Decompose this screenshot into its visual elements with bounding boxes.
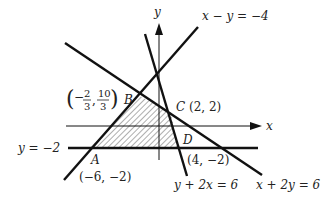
- vertex-a-name: A: [90, 153, 100, 167]
- label-line-x-plus-2y: x + 2y = 6: [256, 178, 321, 192]
- vertex-d-name: D: [182, 133, 193, 147]
- label-line-x-minus-y: x − y = −4: [202, 9, 269, 23]
- x-axis-arrow-icon: [250, 122, 262, 130]
- svg-text:,: ,: [92, 93, 96, 107]
- x-axis-label: x: [266, 119, 273, 133]
- svg-text:3: 3: [84, 101, 90, 112]
- label-line-y-plus-2x: y + 2x = 6: [173, 178, 239, 192]
- svg-text:3: 3: [100, 101, 106, 112]
- svg-text:−: −: [74, 90, 84, 104]
- vertex-c-name: C: [176, 100, 185, 114]
- vertex-a-coords: (−6, −2): [79, 170, 131, 184]
- y-axis-label: y: [153, 5, 161, 19]
- y-axis-arrow-icon: [155, 23, 163, 35]
- label-line-y-eq-minus-2: y = −2: [17, 141, 60, 155]
- vertex-b-coords: ( − 2 3 , 10 3 ): [66, 86, 119, 112]
- svg-text:): ): [110, 86, 119, 111]
- diagram-canvas: y x x − y = −4 x + 2y = 6 y + 2x = 6 y =…: [0, 0, 330, 200]
- vertex-c-coords: (2, 2): [189, 100, 221, 114]
- vertex-b-name: B: [123, 93, 133, 107]
- svg-text:10: 10: [98, 88, 111, 99]
- svg-text:2: 2: [84, 88, 90, 99]
- vertex-d-coords: (4, −2): [187, 153, 229, 167]
